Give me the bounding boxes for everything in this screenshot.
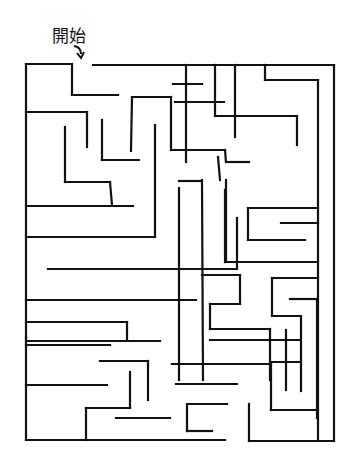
maze-board[interactable] — [0, 0, 356, 472]
maze-wall — [218, 157, 220, 180]
maze-wall — [110, 182, 112, 205]
maze-wall — [225, 150, 226, 162]
maze-wall — [131, 97, 132, 151]
maze-wall — [202, 180, 203, 380]
